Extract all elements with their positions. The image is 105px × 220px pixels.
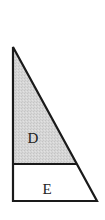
triangle-diagram: D E [0, 0, 105, 220]
label-d: D [28, 130, 39, 146]
label-e: E [42, 181, 51, 197]
region-e [13, 164, 97, 201]
